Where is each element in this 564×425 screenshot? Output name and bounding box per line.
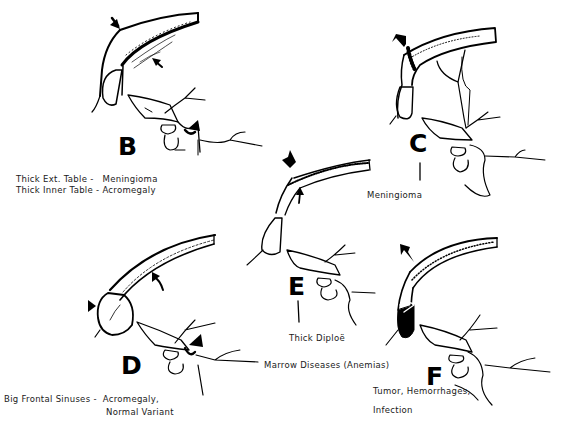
panel-f-caption-line1: Tumor, Hemorrhages, bbox=[373, 385, 471, 398]
panel-e-drawing bbox=[247, 150, 375, 325]
panel-c-letter: C bbox=[409, 131, 427, 156]
panel-d-drawing bbox=[88, 235, 258, 395]
panel-d-caption-line1: Big Frontal Sinuses - Acromegaly, bbox=[4, 393, 159, 406]
panel-e-caption-line2: Marrow Diseases (Anemias) bbox=[264, 359, 389, 372]
panel-d-letter: D bbox=[121, 353, 142, 378]
panel-e-letter: E bbox=[288, 274, 305, 299]
panel-b-letter: B bbox=[118, 134, 137, 159]
panel-c-caption: Meningioma bbox=[367, 189, 422, 202]
panel-e-caption-line1: Thick Diploë bbox=[289, 332, 345, 345]
panel-c-drawing bbox=[390, 28, 545, 196]
panel-f-caption-line2: Infection bbox=[373, 404, 413, 417]
panel-d-caption-line2: Normal Variant bbox=[106, 406, 174, 419]
panel-b-caption-line2: Thick Inner Table - Acromegaly bbox=[16, 184, 156, 197]
panel-f-drawing bbox=[386, 238, 550, 405]
